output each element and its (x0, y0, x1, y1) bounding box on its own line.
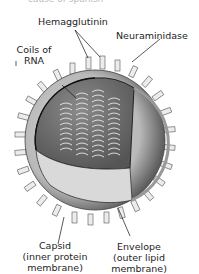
label-coils-of-rna: Coils of RNA (14, 44, 54, 66)
label-hemagglutinin: Hemagglutinin (38, 16, 108, 27)
label-capsid: Capsid (inner protein membrane) (15, 240, 95, 273)
label-envelope: Envelope (outer lipid membrane) (106, 241, 172, 274)
label-neuraminidase: Neuraminidase (116, 30, 188, 41)
